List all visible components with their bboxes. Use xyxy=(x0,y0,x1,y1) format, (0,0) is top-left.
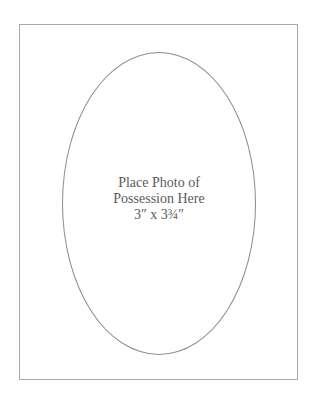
caption-line-2: Possession Here xyxy=(62,191,256,207)
caption-line-1: Place Photo of xyxy=(62,175,256,191)
photo-placeholder-caption: Place Photo of Possession Here 3″ x 3¾″ xyxy=(62,175,256,223)
caption-dimensions: 3″ x 3¾″ xyxy=(62,207,256,223)
